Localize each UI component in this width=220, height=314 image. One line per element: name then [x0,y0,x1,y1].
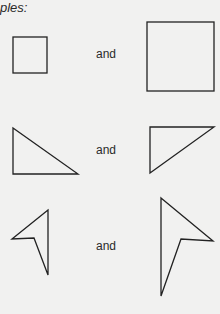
and-label-1: and [96,47,116,61]
small-right-triangle [13,128,78,174]
large-square [147,22,214,91]
small-square [13,37,47,73]
and-label-2: and [96,143,116,157]
large-right-triangle [150,127,214,173]
small-arrowhead [12,210,48,275]
large-arrowhead [161,198,213,296]
and-label-3: and [96,239,116,253]
